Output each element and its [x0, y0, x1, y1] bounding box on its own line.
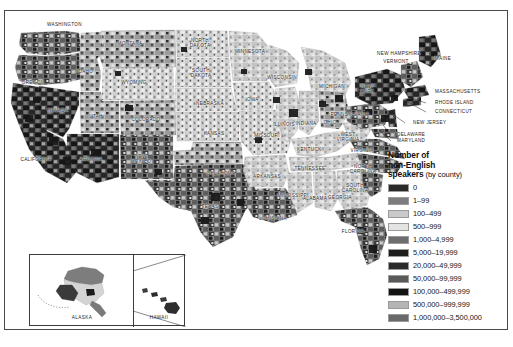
map-frame: WASHINGTONMONTANAOREGONIDAHOWYOMINGNEVAD… — [4, 10, 508, 330]
legend-swatch — [388, 314, 409, 322]
region-north-dakota — [176, 30, 229, 57]
region-wyoming — [102, 67, 174, 100]
legend-label: 5,000–19,999 — [413, 248, 458, 257]
legend-swatch — [388, 301, 409, 309]
legend-label: 100,000–499,999 — [413, 287, 470, 296]
legend-title-line3: speakers (by county) — [388, 170, 508, 180]
legend-title-unit: (by county) — [424, 170, 462, 179]
region-hawaii-oahu — [151, 292, 158, 297]
region-hawaii-maui — [160, 297, 167, 302]
region-alaska-panhandle — [90, 301, 106, 317]
legend-swatch — [388, 223, 409, 231]
legend-title: Number of non-English speakers (by count… — [388, 151, 508, 180]
legend-label: 500,000–999,999 — [413, 300, 470, 309]
region-alaska-anchorage — [86, 289, 95, 296]
legend-row: 1,000–4,999 — [388, 233, 508, 246]
map-legend: Number of non-English speakers (by count… — [388, 151, 508, 324]
legend-title-bold: speakers — [388, 169, 424, 179]
region-new-mexico — [120, 135, 173, 179]
legend-row: 100,000–499,999 — [388, 285, 508, 298]
legend-swatch — [388, 288, 409, 296]
legend-row: 50,000–99,999 — [388, 272, 508, 285]
region-kansas — [176, 112, 239, 141]
inset-label-alaska: ALASKA — [72, 315, 92, 320]
region-arkansas — [243, 155, 289, 187]
legend-swatch — [388, 184, 409, 192]
legend-row: 500–999 — [388, 220, 508, 233]
region-iowa — [233, 82, 275, 110]
legend-row: 1,000,000–3,500,000 — [388, 311, 508, 324]
legend-row: 20,000–49,999 — [388, 259, 508, 272]
legend-swatch — [388, 236, 409, 244]
legend-row: 0 — [388, 181, 508, 194]
legend-row: 5,000–19,999 — [388, 246, 508, 259]
legend-row: 1–99 — [388, 194, 508, 207]
legend-swatch — [388, 262, 409, 270]
region-nebraska — [175, 88, 237, 111]
region-washington — [19, 31, 81, 55]
legend-swatch — [388, 210, 409, 218]
legend-swatch — [388, 197, 409, 205]
legend-row: 500,000–999,999 — [388, 298, 508, 311]
region-montana — [99, 30, 176, 68]
legend-row: 100–499 — [388, 207, 508, 220]
inset-label-hawaii: HAWAII — [150, 315, 168, 320]
legend-label: 50,000–99,999 — [413, 274, 462, 283]
region-hawaii-kauai — [142, 288, 148, 293]
legend-swatch — [388, 249, 409, 257]
legend-label: 0 — [413, 183, 417, 192]
legend-label: 100–499 — [413, 209, 441, 218]
region-south-dakota — [175, 58, 231, 87]
choropleth-map-figure: WASHINGTONMONTANAOREGONIDAHOWYOMINGNEVAD… — [0, 0, 513, 347]
legend-label: 20,000–49,999 — [413, 261, 462, 270]
legend-swatch — [388, 275, 409, 283]
region-oregon — [15, 53, 81, 85]
alaska-hawaii-inset: ALASKA HAWAII — [29, 254, 185, 326]
legend-label: 1,000,000–3,500,000 — [413, 313, 482, 322]
legend-label: 1–99 — [413, 196, 429, 205]
legend-rows: 01–99100–499500–9991,000–4,9995,000–19,9… — [388, 181, 508, 324]
legend-label: 500–999 — [413, 222, 441, 231]
legend-label: 1,000–4,999 — [413, 235, 454, 244]
region-hawaii-big-island — [164, 302, 180, 314]
